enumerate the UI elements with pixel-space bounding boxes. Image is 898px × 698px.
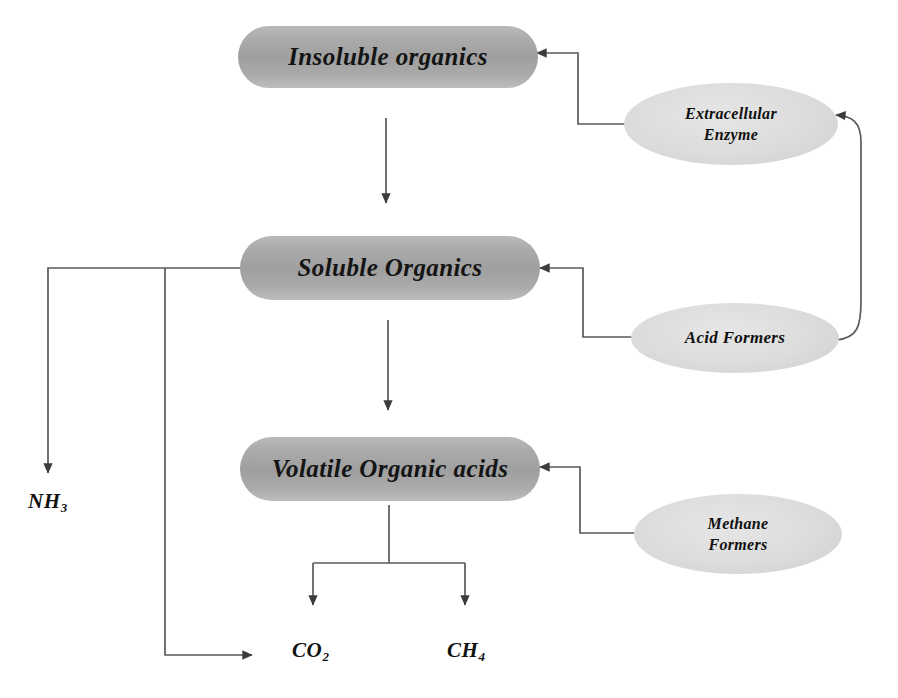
node-soluble-organics[interactable]: Soluble Organics xyxy=(240,236,540,300)
node-extracellular-enzyme-label-line2: Enzyme xyxy=(685,124,777,145)
node-carbon-dioxide-subscript: 2 xyxy=(322,649,329,664)
node-carbon-dioxide: CO2 xyxy=(292,638,329,663)
node-extracellular-enzyme-label-line1: Extracellular xyxy=(685,103,777,124)
node-methane-symbol: CH xyxy=(447,638,478,662)
edge-soluble-to-ammonia xyxy=(48,268,243,473)
edge-enzyme-to-insoluble xyxy=(537,53,626,124)
node-soluble-organics-label: Soluble Organics xyxy=(298,255,483,281)
diagram-canvas: Insoluble organics Soluble Organics Vola… xyxy=(0,0,898,698)
node-methane-formers[interactable]: Methane Formers xyxy=(634,494,842,574)
node-carbon-dioxide-symbol: CO xyxy=(292,638,322,662)
node-methane-subscript: 4 xyxy=(479,649,486,664)
node-insoluble-organics-label: Insoluble organics xyxy=(288,44,488,70)
node-ammonia-symbol: NH xyxy=(28,489,61,513)
node-acid-formers-label: Acid Formers xyxy=(685,327,785,349)
node-insoluble-organics[interactable]: Insoluble organics xyxy=(238,26,538,88)
edge-acidformers-to-enzyme-feedback xyxy=(836,115,861,340)
node-methane-formers-label-line1: Methane xyxy=(708,513,769,534)
node-methane: CH4 xyxy=(447,638,485,663)
node-volatile-organic-acids-label: Volatile Organic acids xyxy=(272,456,509,482)
edge-soluble-to-co2 xyxy=(165,268,252,655)
node-ammonia-subscript: 3 xyxy=(61,500,68,515)
edge-acidformers-to-soluble xyxy=(540,268,633,337)
node-ammonia: NH3 xyxy=(28,489,68,514)
node-volatile-organic-acids[interactable]: Volatile Organic acids xyxy=(240,437,540,501)
node-extracellular-enzyme[interactable]: Extracellular Enzyme xyxy=(624,83,838,165)
node-acid-formers[interactable]: Acid Formers xyxy=(631,303,839,373)
node-methane-formers-label-line2: Formers xyxy=(708,534,769,555)
edge-methaneformers-to-volatile xyxy=(540,467,636,533)
